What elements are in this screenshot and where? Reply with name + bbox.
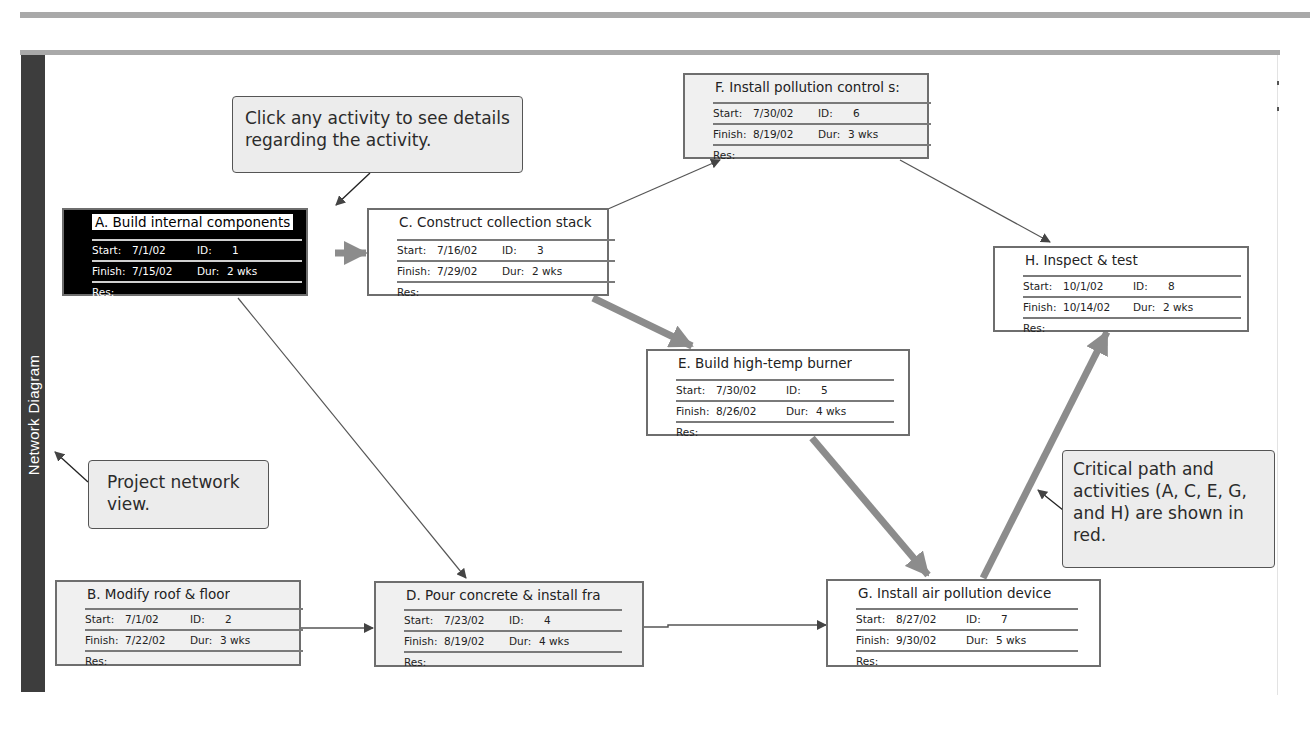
finish-label: Finish: <box>676 405 709 417</box>
dur-value: 2 wks <box>532 265 562 277</box>
start-label: Start: <box>1023 280 1052 292</box>
id-value: 1 <box>232 244 239 256</box>
id-label: ID: <box>502 244 517 256</box>
start-value: 7/16/02 <box>437 244 477 256</box>
callout-network-view: Project network view. <box>88 460 269 529</box>
id-value: 3 <box>537 244 544 256</box>
dur-label: Dur: <box>1133 301 1155 313</box>
id-value: 6 <box>853 107 860 119</box>
activity-title: F. Install pollution control s: <box>715 79 900 95</box>
res-label: Res: <box>676 426 698 438</box>
start-value: 10/1/02 <box>1063 280 1103 292</box>
start-label: Start: <box>713 107 742 119</box>
activity-node-e[interactable]: E. Build high-temp burner Start: 7/30/02… <box>646 349 910 436</box>
arrow-e-to-g <box>812 438 928 575</box>
id-label: ID: <box>966 613 981 625</box>
activity-node-h[interactable]: H. Inspect & test Start: 10/1/02 ID: 8 F… <box>993 246 1249 332</box>
id-label: ID: <box>1133 280 1148 292</box>
start-value: 8/27/02 <box>896 613 936 625</box>
finish-label: Finish: <box>1023 301 1056 313</box>
dur-label: Dur: <box>197 265 219 277</box>
callout-click-activity: Click any activity to see details regard… <box>232 96 523 173</box>
dur-label: Dur: <box>818 128 840 140</box>
dur-value: 2 wks <box>227 265 257 277</box>
finish-value: 8/26/02 <box>716 405 756 417</box>
network-diagram: A. Build internal components Start: 7/1/… <box>0 0 1310 737</box>
dur-label: Dur: <box>966 634 988 646</box>
finish-label: Finish: <box>85 634 118 646</box>
dur-value: 2 wks <box>1163 301 1193 313</box>
activity-node-a[interactable]: A. Build internal components Start: 7/1/… <box>62 208 308 296</box>
finish-value: 7/15/02 <box>132 265 172 277</box>
id-label: ID: <box>509 614 524 626</box>
finish-value: 8/19/02 <box>753 128 793 140</box>
arrow-f-to-h <box>900 160 1050 242</box>
finish-label: Finish: <box>92 265 125 277</box>
activity-title: E. Build high-temp burner <box>678 355 852 371</box>
callout-pointer-critical <box>1038 490 1063 510</box>
finish-label: Finish: <box>856 634 889 646</box>
id-label: ID: <box>190 613 205 625</box>
finish-value: 7/29/02 <box>437 265 477 277</box>
res-label: Res: <box>713 149 735 161</box>
activity-node-f[interactable]: F. Install pollution control s: Start: 7… <box>683 73 929 159</box>
callout-pointer-network <box>55 452 88 482</box>
id-value: 2 <box>225 613 232 625</box>
callout-critical-path: Critical path and activities (A, C, E, G… <box>1062 450 1275 568</box>
start-label: Start: <box>85 613 114 625</box>
id-value: 8 <box>1168 280 1175 292</box>
res-label: Res: <box>404 656 426 668</box>
dur-label: Dur: <box>502 265 524 277</box>
dur-value: 4 wks <box>539 635 569 647</box>
activity-node-g[interactable]: G. Install air pollution device Start: 8… <box>826 579 1101 667</box>
activity-node-d[interactable]: D. Pour concrete & install fra Start: 7/… <box>374 581 644 667</box>
callout-pointer-click <box>336 173 370 205</box>
id-label: ID: <box>786 384 801 396</box>
res-label: Res: <box>1023 322 1045 334</box>
id-label: ID: <box>818 107 833 119</box>
finish-value: 8/19/02 <box>444 635 484 647</box>
activity-title: H. Inspect & test <box>1025 252 1138 268</box>
start-label: Start: <box>676 384 705 396</box>
dur-value: 4 wks <box>816 405 846 417</box>
finish-value: 10/14/02 <box>1063 301 1110 313</box>
activity-title: C. Construct collection stack <box>399 214 592 230</box>
id-label: ID: <box>197 244 212 256</box>
finish-label: Finish: <box>713 128 746 140</box>
dur-label: Dur: <box>509 635 531 647</box>
start-value: 7/1/02 <box>125 613 159 625</box>
start-label: Start: <box>404 614 433 626</box>
arrow-d-to-g <box>642 625 826 627</box>
start-value: 7/30/02 <box>753 107 793 119</box>
dur-value: 5 wks <box>996 634 1026 646</box>
start-value: 7/30/02 <box>716 384 756 396</box>
res-label: Res: <box>85 655 107 667</box>
finish-label: Finish: <box>404 635 437 647</box>
dur-label: Dur: <box>190 634 212 646</box>
start-label: Start: <box>92 244 121 256</box>
activity-node-b[interactable]: B. Modify roof & floor Start: 7/1/02 ID:… <box>55 580 301 666</box>
id-value: 4 <box>544 614 551 626</box>
activity-title: A. Build internal components <box>92 214 293 230</box>
start-label: Start: <box>397 244 426 256</box>
arrow-c-to-f <box>608 160 720 209</box>
finish-value: 7/22/02 <box>125 634 165 646</box>
activity-node-c[interactable]: C. Construct collection stack Start: 7/1… <box>367 208 609 296</box>
id-value: 7 <box>1001 613 1008 625</box>
finish-value: 9/30/02 <box>896 634 936 646</box>
arrow-c-to-e <box>593 298 692 346</box>
dur-value: 3 wks <box>848 128 878 140</box>
start-value: 7/23/02 <box>444 614 484 626</box>
activity-title: B. Modify roof & floor <box>87 586 230 602</box>
start-label: Start: <box>856 613 885 625</box>
id-value: 5 <box>821 384 828 396</box>
res-label: Res: <box>397 286 419 298</box>
activity-title: G. Install air pollution device <box>858 585 1051 601</box>
res-label: Res: <box>92 286 114 298</box>
arrow-a-to-d <box>238 298 466 578</box>
dur-label: Dur: <box>786 405 808 417</box>
finish-label: Finish: <box>397 265 430 277</box>
dur-value: 3 wks <box>220 634 250 646</box>
activity-title: D. Pour concrete & install fra <box>406 587 601 603</box>
res-label: Res: <box>856 655 878 667</box>
